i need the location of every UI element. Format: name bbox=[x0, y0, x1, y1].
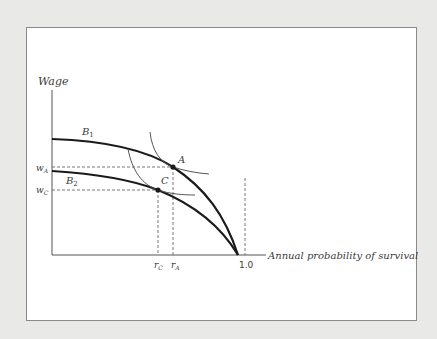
point-a bbox=[170, 164, 175, 169]
rc-label: rC bbox=[154, 260, 163, 271]
wage-survival-diagram: Wage Annual probability of survival 1.0 … bbox=[0, 0, 437, 339]
b1-label: B1 bbox=[81, 126, 94, 139]
point-a-label: A bbox=[177, 154, 185, 165]
ra-label: rA bbox=[171, 260, 180, 271]
x-axis-label: Annual probability of survival bbox=[267, 250, 418, 261]
point-c-label: C bbox=[161, 175, 169, 186]
wc-label: wC bbox=[36, 185, 49, 196]
curve-b1 bbox=[52, 139, 238, 255]
curve-b2 bbox=[52, 171, 238, 255]
x-tick-1: 1.0 bbox=[239, 260, 254, 270]
b2-label: B2 bbox=[65, 175, 78, 188]
point-c bbox=[155, 187, 160, 192]
y-axis-label: Wage bbox=[38, 75, 69, 88]
wa-label: wA bbox=[36, 163, 49, 174]
indifference-curve-a bbox=[150, 132, 209, 174]
